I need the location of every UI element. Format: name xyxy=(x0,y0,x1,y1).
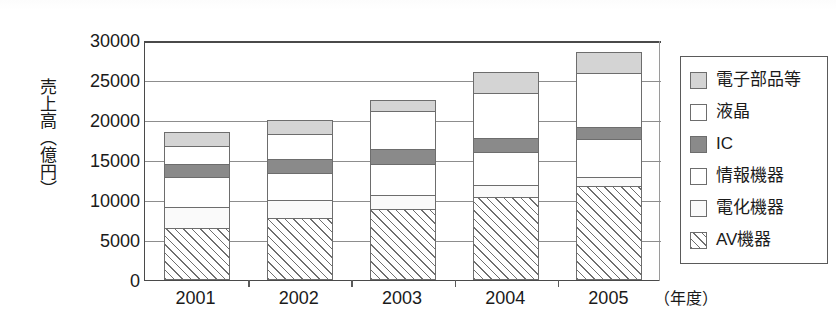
x-axis-tick-label: 2002 xyxy=(244,288,354,308)
bar-2002 xyxy=(267,120,333,280)
white-swatch xyxy=(690,168,707,185)
bar-segment-情報機器 xyxy=(164,177,230,207)
bar-segment-電化機器 xyxy=(164,207,230,228)
bar-segment-電化機器 xyxy=(370,195,436,209)
y-axis-tick-label: 15000 xyxy=(54,152,140,170)
bar-segment-電子部品等 xyxy=(267,120,333,134)
legend-label: IC xyxy=(716,135,733,153)
bar-segment-IC xyxy=(370,149,436,164)
x-axis-tick-label: 2001 xyxy=(141,288,251,308)
bar-segment-電子部品等 xyxy=(164,132,230,146)
bar-segment-IC xyxy=(473,138,539,152)
bar-2005 xyxy=(576,52,642,280)
bar-segment-情報機器 xyxy=(267,173,333,200)
legend-item-電化機器: 電化機器 xyxy=(690,192,827,224)
bar-segment-IC xyxy=(164,164,230,177)
y-axis-tick-label: 5000 xyxy=(54,232,140,250)
bar-segment-AV機器 xyxy=(576,186,642,280)
bar-segment-AV機器 xyxy=(267,218,333,280)
x-axis-tick-label: 2004 xyxy=(450,288,560,308)
legend-item-液晶: 液晶 xyxy=(690,96,827,128)
y-axis-tick-label: 30000 xyxy=(54,32,140,50)
plot-frame-top xyxy=(145,41,661,43)
bar-segment-IC xyxy=(267,159,333,173)
legend-item-電子部品等: 電子部品等 xyxy=(690,64,827,96)
x-tick-mark xyxy=(248,280,250,287)
light-gray-swatch xyxy=(690,72,707,89)
bar-segment-AV機器 xyxy=(473,197,539,280)
white-swatch xyxy=(690,104,707,121)
bar-segment-電子部品等 xyxy=(370,100,436,111)
bar-segment-電化機器 xyxy=(576,177,642,186)
bar-segment-AV機器 xyxy=(164,228,230,280)
bar-segment-情報機器 xyxy=(576,139,642,177)
x-axis-unit-label: （年度） xyxy=(654,289,718,309)
bar-segment-電子部品等 xyxy=(576,52,642,73)
y-axis-tick-label: 0 xyxy=(54,272,140,290)
bar-segment-IC xyxy=(576,127,642,139)
x-tick-mark xyxy=(455,280,457,287)
bar-segment-情報機器 xyxy=(370,164,436,195)
bar-2003 xyxy=(370,100,436,280)
bar-segment-電化機器 xyxy=(267,200,333,218)
chart-canvas: 売上高（億円） 300002500020000150001000050000 2… xyxy=(0,0,836,326)
legend-label: 電化機器 xyxy=(716,199,784,217)
hatch-swatch xyxy=(690,232,707,249)
bar-segment-液晶 xyxy=(473,93,539,138)
legend-item-IC: IC xyxy=(690,128,827,160)
legend-item-情報機器: 情報機器 xyxy=(690,160,827,192)
x-axis-tick-label: 2003 xyxy=(347,288,457,308)
x-tick-mark xyxy=(351,280,353,287)
legend-label: AV機器 xyxy=(716,231,771,249)
bar-segment-液晶 xyxy=(164,146,230,164)
bar-2001 xyxy=(164,132,230,280)
legend-label: 電子部品等 xyxy=(716,71,801,89)
x-axis-tick-label: 2005 xyxy=(553,288,663,308)
bar-segment-液晶 xyxy=(370,111,436,149)
x-tick-mark xyxy=(558,280,560,287)
bar-2004 xyxy=(473,72,539,280)
bar-segment-電化機器 xyxy=(473,185,539,197)
y-axis-tick-labels: 300002500020000150001000050000 xyxy=(0,0,140,326)
y-axis-tick-label: 25000 xyxy=(54,72,140,90)
bar-segment-液晶 xyxy=(576,73,642,127)
legend: 電子部品等液晶IC情報機器電化機器AV機器 xyxy=(680,56,828,264)
white-swatch xyxy=(690,200,707,217)
y-axis-tick-label: 20000 xyxy=(54,112,140,130)
legend-item-AV機器: AV機器 xyxy=(690,224,827,256)
legend-label: 情報機器 xyxy=(716,167,784,185)
y-axis-tick-label: 10000 xyxy=(54,192,140,210)
bar-segment-情報機器 xyxy=(473,152,539,185)
bar-segment-電子部品等 xyxy=(473,72,539,93)
legend-label: 液晶 xyxy=(716,103,750,121)
dark-gray-swatch xyxy=(690,136,707,153)
plot-area xyxy=(144,41,660,281)
bar-segment-液晶 xyxy=(267,134,333,159)
bar-segment-AV機器 xyxy=(370,209,436,280)
